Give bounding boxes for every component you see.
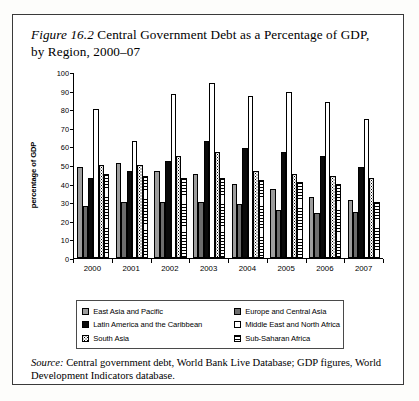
y-axis-tick-label: 90 [61,87,69,96]
x-axis-tick-label-2001: 2001 [122,264,139,273]
legend-label: Sub-Saharan Africa [245,334,310,343]
x-axis-tick-label-2004: 2004 [239,264,256,273]
y-axis-tick-label: 30 [61,199,69,208]
source-note: Source: Central government debt, World B… [31,356,387,383]
y-axis-tick-label: 70 [61,124,69,133]
y-axis-tick-label: 60 [61,143,69,152]
x-axis-tick-label-2007: 2007 [355,264,372,273]
legend-item-middle-east-and-north-africa[interactable]: Middle East and North Africa [234,320,340,329]
x-axis-tickmark [112,259,113,263]
legend: East Asia and PacificEurope and Central … [76,300,344,349]
legend-swatch-icon [82,335,89,342]
bar-ssa-2007 [374,202,379,258]
legend-swatch-icon [234,335,241,342]
legend-label: Europe and Central Asia [245,307,326,316]
bar-ssa-2001 [143,176,148,258]
x-axis-tickmark [151,259,152,263]
legend-item-south-asia[interactable]: South Asia [82,334,234,343]
x-axis-tickmark [189,259,190,263]
y-axis-tick-label: 0 [65,255,69,264]
legend-item-latin-america-and-the-caribbean[interactable]: Latin America and the Caribbean [82,320,234,329]
y-axis-title: percentage of GDP [29,127,38,223]
y-axis-tick-label: 20 [61,217,69,226]
bar-ssa-2003 [220,178,225,258]
bar-group-2004 [229,73,268,258]
y-axis-tick-label: 80 [61,106,69,115]
bar-ssa-2000 [104,174,109,258]
x-axis-tickmark [73,259,74,263]
x-axis-tick-label-2003: 2003 [200,264,217,273]
plot-wrapper: 0102030405060708090100 20002001200220032… [73,73,383,259]
x-axis-tickmark [267,259,268,263]
source-text: Central government debt, World Bank Live… [31,357,381,381]
figure-frame: Figure 16.2 Central Government Debt as a… [12,14,404,385]
bar-ssa-2002 [181,178,186,258]
bar-group-2006 [306,73,345,258]
plot-area [73,73,383,259]
x-axis-tickmark [383,259,384,263]
legend-item-east-asia-and-pacific[interactable]: East Asia and Pacific [82,307,234,316]
x-axis-tickmark [344,259,345,263]
y-axis-tick-label: 100 [57,69,69,78]
legend-label: East Asia and Pacific [93,307,163,316]
y-axis-tick-label: 50 [61,162,69,171]
y-axis-tick-label: 40 [61,180,69,189]
legend-label: Middle East and North Africa [245,320,340,329]
legend-label: South Asia [93,334,129,343]
bar-group-2000 [74,73,113,258]
bar-group-2003 [190,73,229,258]
x-axis-tickmark [228,259,229,263]
legend-item-sub-saharan-africa[interactable]: Sub-Saharan Africa [234,334,340,343]
figure-page: Figure 16.2 Central Government Debt as a… [0,0,419,401]
source-label: Source: [31,357,64,368]
bar-ssa-2005 [297,182,302,258]
x-axis-ticks: 20002001200220032004200520062007 [73,259,383,277]
bar-group-2007 [344,73,383,258]
bars-layer [74,73,383,258]
legend-swatch-icon [234,308,241,315]
x-axis-tickmark [306,259,307,263]
x-axis-tick-label-2005: 2005 [277,264,294,273]
bar-group-2001 [113,73,152,258]
legend-grid: East Asia and PacificEurope and Central … [82,305,338,346]
legend-item-europe-and-central-asia[interactable]: Europe and Central Asia [234,307,340,316]
y-axis-tick-label: 10 [61,236,69,245]
legend-swatch-icon [82,308,89,315]
legend-swatch-icon [234,321,241,328]
x-axis-tick-label-2006: 2006 [316,264,333,273]
bar-ssa-2006 [336,184,341,258]
x-axis-tick-label-2000: 2000 [84,264,101,273]
figure-number: Figure 16.2 [31,27,94,42]
bar-ssa-2004 [259,180,264,258]
bar-group-2002 [151,73,190,258]
bar-group-2005 [267,73,306,258]
chart-container: percentage of GDP 0102030405060708090100… [31,69,387,281]
legend-label: Latin America and the Caribbean [93,320,202,329]
figure-title: Figure 16.2 Central Government Debt as a… [31,27,381,60]
legend-swatch-icon [82,321,89,328]
x-axis-tick-label-2002: 2002 [161,264,178,273]
